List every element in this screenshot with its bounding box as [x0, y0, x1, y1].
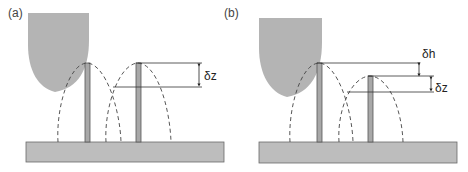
dz-label-a: δz	[204, 69, 217, 83]
diagram-canvas: (a) δz (b)	[0, 0, 468, 172]
pillar-2-b	[368, 76, 373, 142]
substrate-b	[259, 142, 457, 163]
panel-a: (a) δz	[8, 6, 224, 162]
afm-tip-b	[259, 18, 322, 97]
dh-label-b: δh	[422, 47, 435, 61]
panel-b-label: (b)	[224, 6, 239, 20]
pillar-1-a	[85, 63, 90, 142]
pillar-1-b	[317, 63, 322, 142]
dz-label-b: δz	[435, 81, 448, 95]
panel-b: (b) δh δz	[224, 6, 457, 163]
afm-tip-a	[28, 13, 89, 92]
pillar-2-a	[136, 63, 141, 142]
substrate-a	[26, 142, 224, 162]
panel-a-label: (a)	[8, 6, 23, 20]
